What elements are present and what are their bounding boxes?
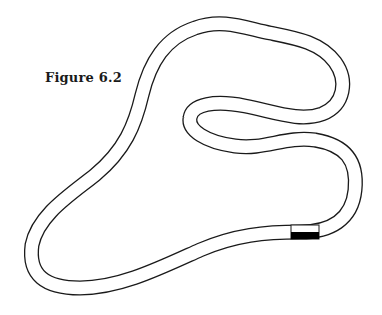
start-finish-marker <box>291 225 319 239</box>
figure-canvas: Figure 6.2 <box>0 0 382 315</box>
track-diagram <box>0 0 382 315</box>
track-road-surface <box>31 24 355 288</box>
